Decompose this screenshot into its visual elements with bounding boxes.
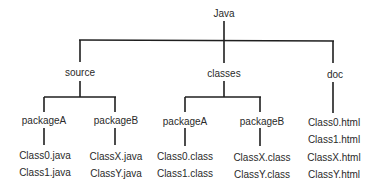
file-classy-html: ClassY.html bbox=[308, 169, 360, 181]
file-classx-class: ClassX.class bbox=[233, 152, 290, 164]
node-doc: doc bbox=[327, 69, 343, 81]
node-java-root: Java bbox=[213, 8, 234, 20]
file-classy-java: ClassY.java bbox=[90, 168, 142, 180]
file-class1-java: Class1.java bbox=[19, 167, 71, 179]
file-class1-html: Class1.html bbox=[308, 134, 360, 146]
file-class0-class: Class0.class bbox=[157, 151, 213, 163]
node-classes: classes bbox=[207, 68, 240, 80]
node-classes-packageB: packageB bbox=[240, 116, 284, 128]
file-classy-class: ClassY.class bbox=[234, 169, 290, 181]
node-source-packageB: packageB bbox=[94, 115, 138, 127]
file-class0-java: Class0.java bbox=[19, 150, 71, 162]
file-class0-html: Class0.html bbox=[308, 117, 360, 129]
file-class1-class: Class1.class bbox=[157, 168, 213, 180]
node-source-packageA: packageA bbox=[22, 115, 66, 127]
file-classx-java: ClassX.java bbox=[90, 151, 143, 163]
file-classx-html: ClassX.html bbox=[307, 152, 360, 164]
node-classes-packageA: packageA bbox=[163, 116, 207, 128]
node-source: source bbox=[65, 67, 95, 79]
